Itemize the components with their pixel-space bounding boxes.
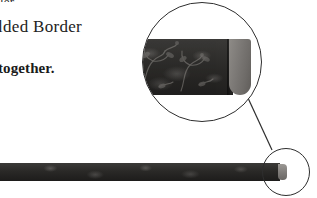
magnified-end-cap [229,39,251,95]
strip-patterned-face [0,163,280,181]
body-text-line: together. [0,60,55,77]
magnifier-stage [143,3,262,122]
magnified-detail-circle [142,2,262,122]
damask-pattern-icon [142,39,233,95]
detail-marker-circle [262,148,310,196]
figure-page: ler. lded Border together. [0,0,317,198]
clipped-text-above: ler. [0,0,60,2]
page-title: lded Border [0,17,82,37]
molded-border-strip [0,163,288,181]
